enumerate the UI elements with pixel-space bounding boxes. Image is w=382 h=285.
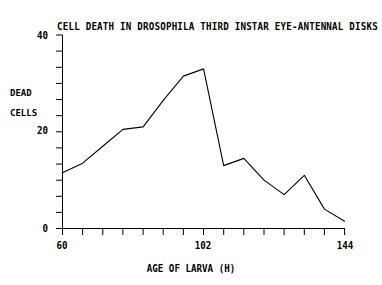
y-axis-ticks	[56, 35, 63, 229]
data-series-line	[63, 69, 345, 221]
chart-figure: CELL DEATH IN DROSOPHILA THIRD INSTAR EY…	[0, 0, 382, 285]
x-axis-ticks	[63, 229, 345, 236]
axis-lines	[63, 35, 346, 229]
chart-canvas	[0, 0, 382, 285]
